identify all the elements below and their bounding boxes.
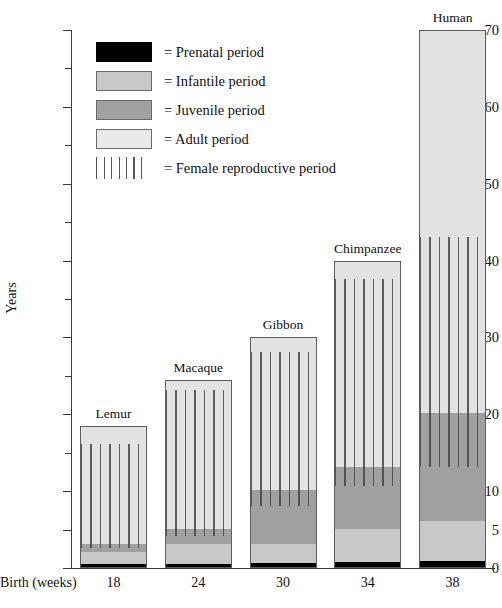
bar-stack[interactable] bbox=[165, 380, 232, 568]
y-tick-major bbox=[63, 261, 71, 262]
bar-segment-juvenile bbox=[420, 413, 485, 521]
bar-segment-adult bbox=[166, 380, 231, 529]
y-tick-major bbox=[63, 530, 71, 531]
bar-segment-juvenile bbox=[251, 490, 316, 544]
bar-stack[interactable] bbox=[250, 337, 317, 568]
bar-segment-adult bbox=[420, 30, 485, 413]
bar-segment-prenatal bbox=[81, 564, 146, 567]
legend-label: = Adult period bbox=[164, 127, 249, 151]
y-axis-title: Years bbox=[4, 268, 20, 328]
x-tick-label: 38 bbox=[410, 575, 495, 591]
legend-swatch-adult-icon bbox=[96, 129, 152, 149]
bar-label-human: Human bbox=[403, 10, 502, 26]
y-tick-major bbox=[63, 107, 71, 108]
bar-segment-juvenile bbox=[335, 467, 400, 528]
bar-segment-infantile bbox=[335, 529, 400, 562]
x-axis-title: Birth (weeks) bbox=[0, 575, 68, 591]
y-tick-major bbox=[63, 184, 71, 185]
legend-swatch-infantile-icon bbox=[96, 71, 152, 91]
y-tick-major bbox=[63, 568, 71, 569]
bar-label-chimpanzee: Chimpanzee bbox=[318, 241, 417, 257]
bar-segment-prenatal bbox=[335, 562, 400, 567]
y-tick-major bbox=[63, 337, 71, 338]
bar-segment-infantile bbox=[251, 544, 316, 563]
x-tick-label: 30 bbox=[241, 575, 326, 591]
legend-label: = Juvenile period bbox=[164, 98, 265, 122]
x-tick-label: 24 bbox=[156, 575, 241, 591]
bar-label-gibbon: Gibbon bbox=[234, 317, 333, 333]
bar-segment-infantile bbox=[420, 521, 485, 562]
bar-segment-adult bbox=[251, 337, 316, 490]
bar-segment-juvenile bbox=[81, 544, 146, 552]
bar-segment-juvenile bbox=[166, 529, 231, 544]
bar-segment-infantile bbox=[166, 544, 231, 564]
bar-segment-adult bbox=[335, 261, 400, 468]
legend-swatch-prenatal-icon bbox=[96, 42, 152, 62]
legend-label: = Infantile period bbox=[164, 69, 266, 93]
legend-label: = Prenatal period bbox=[164, 40, 264, 64]
bar-stack[interactable] bbox=[419, 30, 486, 568]
x-tick-label: 34 bbox=[325, 575, 410, 591]
bar-stack[interactable] bbox=[80, 426, 147, 568]
bar-segment-prenatal bbox=[420, 561, 485, 567]
bar-segment-prenatal bbox=[166, 564, 231, 567]
bar-group[interactable]: Human bbox=[419, 30, 486, 568]
x-tick-label: 18 bbox=[71, 575, 156, 591]
bar-group[interactable]: Chimpanzee bbox=[334, 30, 401, 568]
legend-swatch-juvenile-icon bbox=[96, 100, 152, 120]
bar-stack[interactable] bbox=[334, 261, 401, 568]
y-tick-major bbox=[63, 30, 71, 31]
bar-label-macaque: Macaque bbox=[149, 360, 248, 376]
y-tick-major bbox=[63, 491, 71, 492]
bar-segment-prenatal bbox=[251, 563, 316, 567]
legend-label: = Female reproductive period bbox=[164, 156, 336, 180]
x-axis-line bbox=[71, 568, 495, 569]
bar-segment-infantile bbox=[81, 552, 146, 565]
bar-label-lemur: Lemur bbox=[64, 406, 163, 422]
bar-segment-adult bbox=[81, 426, 146, 544]
